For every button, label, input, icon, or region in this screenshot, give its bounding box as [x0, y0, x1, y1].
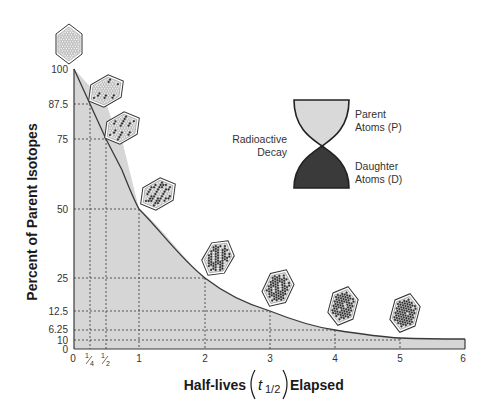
- x-tick-quarter-den: 4: [90, 360, 94, 367]
- x-tick-4: 4: [332, 353, 338, 364]
- hourglass-legend: Radioactive Decay Parent Atoms (P) Daugh…: [232, 100, 402, 188]
- x-tick-quarter: 1 4: [85, 352, 94, 367]
- y-tick-87-5: 87.5: [49, 99, 69, 110]
- x-tick-half: 1 2: [101, 352, 110, 367]
- parent-bulb: [294, 100, 349, 146]
- x-axis-title-after: Elapsed: [290, 377, 344, 393]
- x-axis-title-before: Half-lives: [184, 377, 246, 393]
- y-tick-12-5: 12.5: [49, 306, 69, 317]
- x-axis-symbol: t: [258, 376, 263, 393]
- legend-parent-line1: Parent: [355, 108, 386, 120]
- legend-daughter-line2: Atoms (D): [355, 173, 402, 185]
- decay-chart: 100 87.5 75 50 25 12.5 6.25 10 0 0 1 4 1…: [0, 0, 491, 416]
- x-axis-subscript: 1/2: [265, 383, 280, 395]
- y-tick-100: 100: [51, 64, 68, 75]
- legend-parent-line2: Atoms (P): [355, 121, 402, 133]
- x-axis-title: Half-lives t 1/2 Elapsed: [184, 370, 344, 399]
- x-tick-half-den: 2: [106, 360, 110, 367]
- atom-hexagon: [197, 234, 240, 282]
- x-tick-0: 0: [70, 353, 76, 364]
- x-tick-3: 3: [267, 353, 273, 364]
- y-tick-25: 25: [57, 273, 69, 284]
- y-tick-50: 50: [57, 204, 69, 215]
- x-tick-half-num: 1: [101, 352, 105, 359]
- daughter-bulb: [294, 146, 349, 188]
- y-tick-6-25: 6.25: [49, 324, 69, 335]
- atom-hexagon: [258, 264, 298, 311]
- legend-title-line2: Decay: [257, 146, 288, 158]
- atom-hexagon: [56, 24, 82, 64]
- x-tick-5: 5: [397, 353, 403, 364]
- x-axis-ticks: 0 1 4 1 2 1 2 3 4 5 6: [70, 352, 466, 367]
- x-tick-quarter-num: 1: [85, 352, 89, 359]
- y-axis-ticks: 100 87.5 75 50 25 12.5 6.25 10 0: [49, 64, 69, 355]
- atom-hexagon: [387, 290, 422, 335]
- atom-hexagon: [134, 173, 182, 216]
- y-tick-0: 0: [62, 344, 68, 355]
- x-tick-6: 6: [460, 353, 466, 364]
- legend-daughter-line1: Daughter: [355, 160, 399, 172]
- x-tick-1: 1: [136, 353, 142, 364]
- y-tick-75: 75: [57, 134, 69, 145]
- y-axis-title: Percent of Parent Isotopes: [24, 123, 40, 301]
- legend-title-line1: Radioactive: [232, 133, 287, 145]
- x-tick-2: 2: [202, 353, 208, 364]
- atom-hexagon: [325, 283, 360, 328]
